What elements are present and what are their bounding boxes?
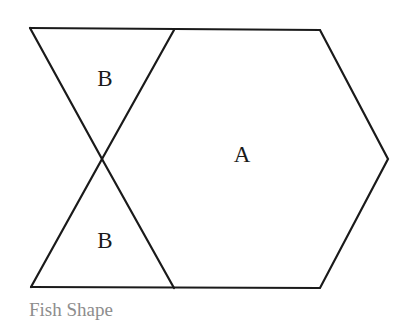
figure-caption: Fish Shape bbox=[29, 300, 113, 321]
region-label-a: A bbox=[234, 143, 251, 166]
hexagon-outline bbox=[30, 28, 388, 288]
region-label-b-lower: B bbox=[97, 229, 112, 252]
left-outer-edge bbox=[30, 28, 102, 287]
region-label-b-upper: B bbox=[97, 67, 112, 90]
upper-inner-slant bbox=[102, 30, 174, 159]
lower-inner-slant bbox=[102, 159, 174, 288]
fish-shape-figure: B A B Fish Shape bbox=[0, 0, 408, 327]
fish-shape-drawing bbox=[0, 0, 408, 327]
